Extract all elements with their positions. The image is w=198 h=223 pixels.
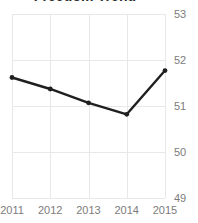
data-point-marker	[163, 68, 168, 73]
series-line-freedom-score	[0, 0, 198, 223]
series-markers	[10, 68, 168, 117]
line-chart: Freedom Trend 53525150492011201220132014…	[0, 0, 198, 223]
series-polyline	[12, 71, 165, 115]
data-point-marker	[48, 87, 53, 92]
data-point-marker	[86, 100, 91, 105]
data-point-marker	[10, 75, 15, 80]
data-point-marker	[124, 112, 129, 117]
